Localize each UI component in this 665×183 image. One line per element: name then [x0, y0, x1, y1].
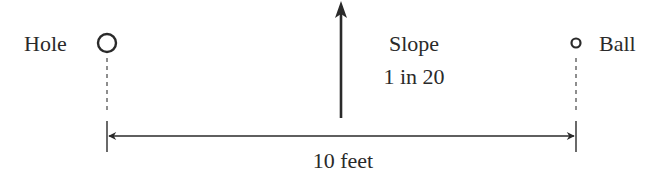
putting-diagram: Hole Ball 10 feet Slope 1 in 20 [0, 0, 665, 183]
hole-label: Hole [24, 31, 67, 56]
slope-title: Slope [389, 31, 439, 56]
hole-icon [98, 34, 116, 52]
ball-label: Ball [599, 31, 636, 56]
slope-ratio: 1 in 20 [383, 64, 444, 89]
ball-icon [572, 39, 581, 48]
distance-label: 10 feet [313, 148, 373, 173]
